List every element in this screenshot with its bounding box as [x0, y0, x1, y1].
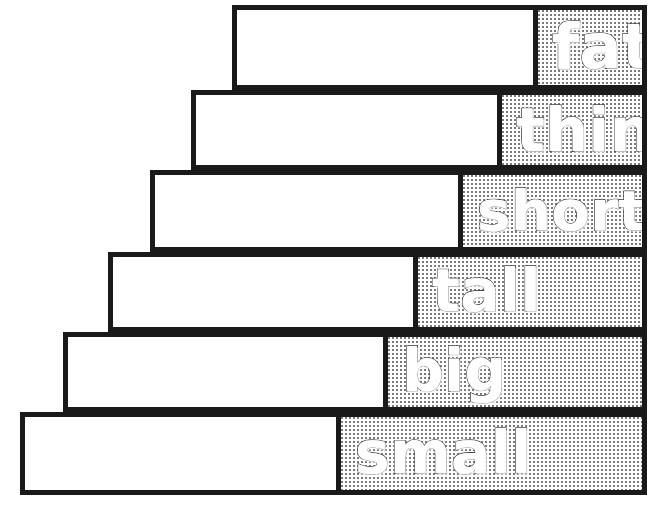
step-stipple-area: tall	[413, 257, 642, 327]
step-word: thin	[502, 102, 642, 159]
step-stipple-area: small	[336, 417, 642, 490]
step-row: small	[20, 412, 647, 495]
step-blank-area	[25, 417, 336, 490]
step-row: big	[63, 332, 647, 412]
step-word: small	[341, 426, 532, 481]
step-blank-area	[196, 95, 497, 165]
step-stipple-area: short	[458, 175, 642, 247]
step-stipple-area: fat	[533, 10, 642, 85]
step-stipple-area: big	[383, 337, 642, 407]
step-word: short	[463, 184, 642, 237]
step-word: big	[388, 344, 507, 399]
step-row: thin	[191, 90, 647, 170]
step-blank-area	[155, 175, 458, 247]
step-blank-area	[113, 257, 413, 327]
step-blank-area	[68, 337, 383, 407]
diagram-canvas: fatthinshorttallbigsmall	[0, 0, 663, 518]
step-word: fat	[538, 18, 642, 77]
step-stipple-area: thin	[497, 95, 642, 165]
step-row: short	[150, 170, 647, 252]
step-row: tall	[108, 252, 647, 332]
step-blank-area	[237, 10, 533, 85]
step-row: fat	[232, 5, 647, 90]
step-word: tall	[418, 264, 541, 319]
